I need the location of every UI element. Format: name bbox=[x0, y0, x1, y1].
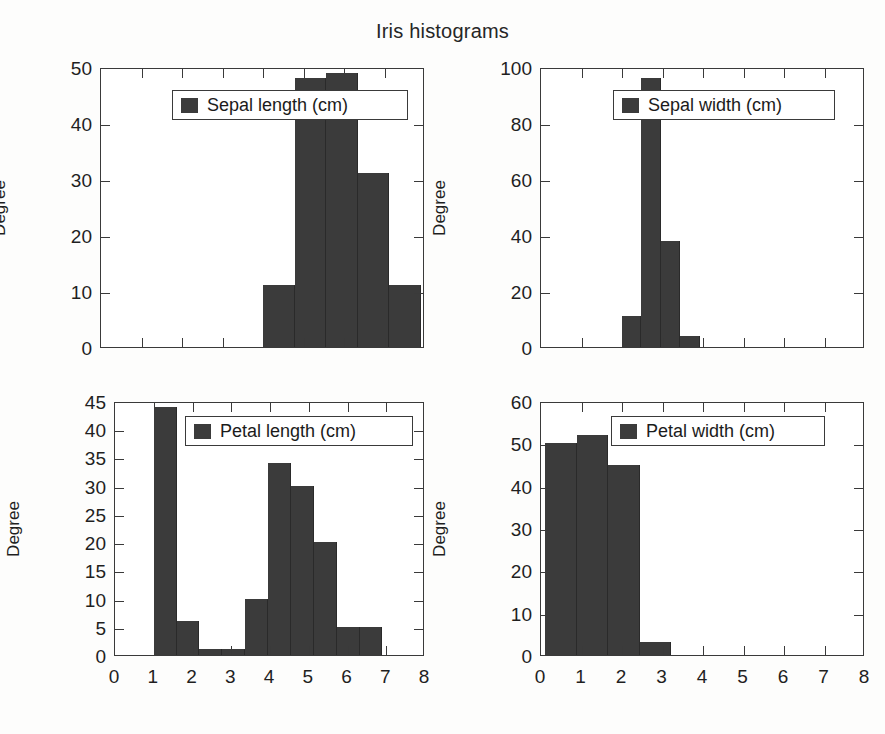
y-axis-tick-right bbox=[854, 445, 863, 446]
histogram-bar bbox=[640, 642, 672, 655]
histogram-bar bbox=[577, 435, 609, 655]
legend-label: Sepal length (cm) bbox=[207, 96, 348, 114]
legend-petal-width[interactable]: Petal width (cm) bbox=[611, 416, 825, 446]
x-axis-tick bbox=[663, 646, 664, 655]
x-axis-tick bbox=[825, 646, 826, 655]
x-axis-tick bbox=[622, 646, 623, 655]
y-axis-tick bbox=[541, 488, 550, 489]
y-axis-tick-label: 20 bbox=[482, 562, 532, 581]
x-axis-tick bbox=[744, 646, 745, 655]
legend-label: Sepal width (cm) bbox=[648, 96, 782, 114]
y-axis-tick bbox=[541, 445, 550, 446]
histogram-bar bbox=[545, 443, 577, 655]
y-axis-title: Degree bbox=[430, 479, 450, 579]
x-axis-tick-label: 6 bbox=[768, 667, 798, 686]
y-axis-tick-right bbox=[854, 488, 863, 489]
x-axis-tick-top bbox=[744, 403, 745, 412]
x-axis-tick-label: 5 bbox=[728, 667, 758, 686]
y-axis-tick bbox=[541, 530, 550, 531]
x-axis-tick-top bbox=[622, 403, 623, 412]
x-axis-tick bbox=[582, 646, 583, 655]
x-axis-tick bbox=[703, 646, 704, 655]
figure-canvas: Iris histograms 01020304050DegreeSepal l… bbox=[0, 0, 885, 734]
y-axis-tick-label: 50 bbox=[482, 435, 532, 454]
x-axis-tick-top bbox=[784, 403, 785, 412]
legend-sepal-width[interactable]: Sepal width (cm) bbox=[613, 90, 835, 120]
legend-petal-length[interactable]: Petal length (cm) bbox=[185, 416, 413, 446]
y-axis-tick-right bbox=[854, 615, 863, 616]
x-axis-tick-label: 7 bbox=[809, 667, 839, 686]
legend-label: Petal length (cm) bbox=[220, 422, 356, 440]
x-axis-tick-top bbox=[703, 403, 704, 412]
x-axis-tick-top bbox=[582, 403, 583, 412]
x-axis-tick-top bbox=[825, 403, 826, 412]
y-axis-tick-label: 30 bbox=[482, 520, 532, 539]
y-axis-tick-right bbox=[854, 572, 863, 573]
legend-label: Petal width (cm) bbox=[646, 422, 775, 440]
legend-swatch-icon bbox=[181, 98, 198, 113]
histogram-bar bbox=[608, 465, 640, 656]
legend-swatch-icon bbox=[622, 98, 639, 113]
x-axis-tick bbox=[784, 646, 785, 655]
y-axis-tick bbox=[541, 615, 550, 616]
x-axis-tick-label: 4 bbox=[687, 667, 717, 686]
y-axis-tick-label: 40 bbox=[482, 478, 532, 497]
legend-sepal-length[interactable]: Sepal length (cm) bbox=[172, 90, 408, 120]
legend-swatch-icon bbox=[194, 424, 211, 439]
x-axis-tick-label: 0 bbox=[525, 667, 555, 686]
y-axis-tick-label: 60 bbox=[482, 393, 532, 412]
x-axis-tick-top bbox=[663, 403, 664, 412]
x-axis-tick-label: 2 bbox=[606, 667, 636, 686]
y-axis-tick bbox=[541, 572, 550, 573]
y-axis-tick-label: 0 bbox=[482, 647, 532, 666]
y-axis-tick-right bbox=[854, 530, 863, 531]
y-axis-tick-label: 10 bbox=[482, 605, 532, 624]
x-axis-tick-label: 8 bbox=[849, 667, 879, 686]
legend-swatch-icon bbox=[620, 424, 637, 439]
x-axis-tick-label: 1 bbox=[566, 667, 596, 686]
x-axis-tick-label: 3 bbox=[647, 667, 677, 686]
